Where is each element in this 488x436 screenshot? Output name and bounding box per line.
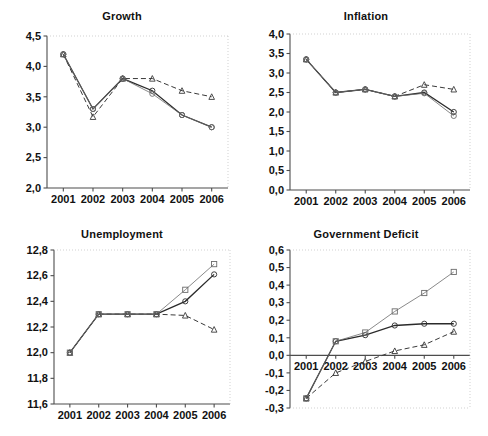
panel-unemployment: Unemployment 11,611,812,012,212,412,612,… <box>0 218 244 436</box>
y-axis-tick-label: -0,3 <box>265 402 284 414</box>
series-thin-line <box>304 57 457 119</box>
panel-growth: Growth 2,02,53,03,54,04,5200120022003200… <box>0 0 244 218</box>
x-axis-tick-label: 2001 <box>294 195 318 207</box>
series-solid-circle <box>67 272 216 355</box>
x-axis-tick-label: 2006 <box>202 409 226 421</box>
y-axis-tick-label: 0,2 <box>269 314 284 326</box>
y-axis-tick-label: 1,5 <box>269 125 284 137</box>
data-point-marker-circle <box>209 125 214 130</box>
series-solid-circle <box>61 52 215 130</box>
y-axis-tick-label: 12,6 <box>27 269 48 281</box>
data-point-marker-triangle <box>211 327 217 333</box>
y-axis-tick-label: -0,2 <box>265 384 284 396</box>
y-axis-ticks: 0,00,51,01,52,02,53,03,54,0 <box>269 28 290 196</box>
panel-government-deficit: Government Deficit -0,3-0,2-0,10,00,10,2… <box>244 218 488 436</box>
y-axis-tick-label: 11,8 <box>27 372 48 384</box>
y-axis-tick-label: 12,2 <box>27 321 48 333</box>
panel-inflation: Inflation 0,00,51,01,52,02,53,03,54,0200… <box>244 0 488 218</box>
y-axis-tick-label: 0,5 <box>269 164 284 176</box>
x-axis-tick-label: 2003 <box>353 360 377 372</box>
series-dashed-triangle <box>61 51 215 119</box>
y-axis-tick-label: 4,5 <box>26 30 41 42</box>
y-axis-tick-label: 2,0 <box>269 106 284 118</box>
y-axis-ticks: 11,611,812,012,212,412,612,8 <box>27 244 54 410</box>
x-axis-tick-label: 2004 <box>383 360 408 372</box>
y-axis-tick-label: 0,5 <box>269 261 284 273</box>
y-axis-tick-label: 0,0 <box>269 349 284 361</box>
y-axis-tick-label: 3,0 <box>26 121 41 133</box>
y-axis-tick-label: 2,0 <box>26 182 41 194</box>
y-axis-tick-label: 0,1 <box>269 332 284 344</box>
y-axis-tick-label: 4,0 <box>269 28 284 40</box>
y-axis-tick-label: 12,4 <box>27 295 49 307</box>
x-axis-tick-label: 2003 <box>353 195 377 207</box>
y-axis-tick-label: 12,8 <box>27 244 48 256</box>
y-axis-tick-label: 2,5 <box>269 86 284 98</box>
x-axis-tick-label: 2001 <box>51 193 75 205</box>
data-point-marker-circle <box>451 113 456 118</box>
series-dashed-triangle <box>67 311 217 355</box>
x-axis-ticks: 200120022003200420052006 <box>294 355 466 372</box>
y-axis-tick-label: 0,3 <box>269 296 284 308</box>
x-axis-tick-label: 2003 <box>115 409 139 421</box>
x-axis-tick-label: 2003 <box>110 193 134 205</box>
x-axis-tick-label: 2002 <box>86 409 110 421</box>
x-axis-tick-label: 2005 <box>412 360 436 372</box>
x-axis-tick-label: 2001 <box>58 409 82 421</box>
x-axis-ticks: 200120022003200420052006 <box>294 190 466 207</box>
y-axis-tick-label: 1,0 <box>269 145 284 157</box>
x-axis-tick-label: 2005 <box>173 409 197 421</box>
chart-government-deficit: -0,3-0,2-0,10,00,10,20,30,40,50,62001200… <box>244 218 488 436</box>
y-axis-tick-label: 3,0 <box>269 67 284 79</box>
x-axis-tick-label: 2006 <box>442 195 466 207</box>
y-axis-tick-label: 11,6 <box>27 398 48 410</box>
x-axis-tick-label: 2005 <box>412 195 436 207</box>
data-point-marker-triangle <box>392 348 398 354</box>
y-axis-tick-label: -0,1 <box>265 367 284 379</box>
y-axis-tick-label: 2,5 <box>26 151 41 163</box>
y-axis-tick-label: 3,5 <box>26 91 41 103</box>
chart-growth: 2,02,53,03,54,04,52001200220032004200520… <box>0 0 244 218</box>
x-axis-tick-label: 2006 <box>442 360 466 372</box>
plot-frame <box>290 34 470 190</box>
chart-unemployment: 11,611,812,012,212,412,612,8200120022003… <box>0 218 244 436</box>
x-axis-tick-label: 2005 <box>170 193 194 205</box>
x-axis-tick-label: 2006 <box>199 193 223 205</box>
y-axis-tick-label: 0,0 <box>269 184 284 196</box>
x-axis-ticks: 200120022003200420052006 <box>51 188 224 205</box>
x-axis-tick-label: 2002 <box>81 193 105 205</box>
plot-frame <box>47 36 228 188</box>
x-axis-tick-label: 2004 <box>144 409 169 421</box>
data-point-marker-triangle <box>451 329 457 335</box>
y-axis-tick-label: 0,4 <box>269 279 285 291</box>
x-axis-tick-label: 2004 <box>140 193 165 205</box>
x-axis-tick-label: 2001 <box>294 360 318 372</box>
x-axis-tick-label: 2002 <box>323 195 347 207</box>
y-axis-tick-label: 3,5 <box>269 47 284 59</box>
y-axis-tick-label: 0,6 <box>269 244 284 256</box>
y-axis-ticks: 2,02,53,03,54,04,5 <box>26 30 47 194</box>
y-axis-ticks: -0,3-0,2-0,10,00,10,20,30,40,50,6 <box>265 244 290 414</box>
series-thin-square <box>67 262 216 356</box>
chart-inflation: 0,00,51,01,52,02,53,03,54,02001200220032… <box>244 0 488 218</box>
x-axis-tick-label: 2004 <box>383 195 408 207</box>
y-axis-tick-label: 12,0 <box>27 346 48 358</box>
y-axis-tick-label: 4,0 <box>26 60 41 72</box>
figure-panel-grid: Growth 2,02,53,03,54,04,5200120022003200… <box>0 0 488 436</box>
x-axis-ticks: 200120022003200420052006 <box>58 404 227 421</box>
plot-frame <box>290 250 470 408</box>
